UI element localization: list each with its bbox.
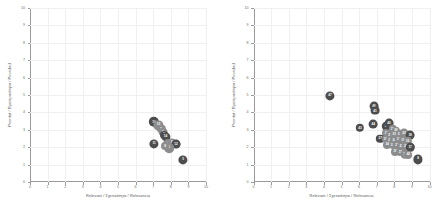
y-tick-mark bbox=[28, 112, 31, 113]
y-tick-label: 3 bbox=[247, 128, 249, 132]
x-tick-label: 7 bbox=[152, 185, 154, 189]
x-tick-label: 10 bbox=[204, 185, 208, 189]
x-tick-label: 5 bbox=[117, 185, 119, 189]
y-tick-mark bbox=[28, 182, 31, 183]
y-axis-label-right: Prioritat / Προτεραιότητα / Prioridad bbox=[230, 63, 235, 127]
y-tick-label: 6 bbox=[23, 76, 25, 80]
gridline-horizontal bbox=[30, 60, 206, 61]
y-tick-mark bbox=[28, 78, 31, 79]
gridline-horizontal bbox=[254, 25, 430, 26]
y-tick-label: 8 bbox=[247, 41, 249, 45]
y-tick-label: 9 bbox=[23, 23, 25, 27]
gridline-horizontal bbox=[254, 78, 430, 79]
x-tick-label: 7 bbox=[376, 185, 378, 189]
y-tick-mark bbox=[251, 147, 254, 148]
y-tick-label: 2 bbox=[23, 145, 25, 149]
x-tick-label: 3 bbox=[305, 185, 307, 189]
gridline-horizontal bbox=[254, 112, 430, 113]
y-axis-label-left: Prioritat / Προτεραιότητα / Prioridad bbox=[7, 63, 12, 127]
y-tick-mark bbox=[28, 43, 31, 44]
y-tick-mark bbox=[28, 25, 31, 26]
chart-panel-left: 012345678910012345678910 101396314114712… bbox=[0, 0, 224, 215]
y-tick-label: 7 bbox=[247, 58, 249, 62]
gridline-horizontal bbox=[254, 43, 430, 44]
y-tick-label: 6 bbox=[247, 76, 249, 80]
gridline-horizontal bbox=[30, 130, 206, 131]
y-tick-label: 10 bbox=[245, 6, 249, 10]
x-tick-label: 8 bbox=[170, 185, 172, 189]
gridline-horizontal bbox=[30, 8, 206, 9]
x-tick-label: 1 bbox=[270, 185, 272, 189]
gridline-horizontal bbox=[254, 165, 430, 166]
y-tick-mark bbox=[28, 130, 31, 131]
gridline-vertical bbox=[430, 8, 431, 182]
x-tick-label: 3 bbox=[82, 185, 84, 189]
y-tick-label: 4 bbox=[23, 110, 25, 114]
gridline-horizontal bbox=[30, 95, 206, 96]
y-tick-mark bbox=[251, 95, 254, 96]
x-tick-label: 0 bbox=[29, 185, 31, 189]
y-tick-mark bbox=[28, 60, 31, 61]
y-tick-mark bbox=[28, 165, 31, 166]
y-tick-mark bbox=[251, 112, 254, 113]
gridline-horizontal bbox=[30, 25, 206, 26]
y-tick-label: 0 bbox=[23, 180, 25, 184]
x-tick-label: 6 bbox=[358, 185, 360, 189]
x-tick-label: 2 bbox=[64, 185, 66, 189]
y-tick-mark bbox=[28, 95, 31, 96]
x-tick-label: 9 bbox=[187, 185, 189, 189]
scatter-point: 42 bbox=[404, 151, 412, 159]
x-tick-label: 8 bbox=[393, 185, 395, 189]
y-tick-mark bbox=[251, 25, 254, 26]
x-tick-label: 4 bbox=[323, 185, 325, 189]
scatter-point: 44 bbox=[369, 119, 378, 128]
y-tick-label: 5 bbox=[247, 93, 249, 97]
figure-canvas: 012345678910012345678910 101396314114712… bbox=[0, 0, 447, 215]
x-axis-label-left: Relevant / Σχετικότητα / Relevancia bbox=[30, 193, 206, 198]
y-tick-label: 1 bbox=[23, 163, 25, 167]
y-tick-mark bbox=[251, 8, 254, 9]
gridline-horizontal bbox=[30, 165, 206, 166]
y-tick-mark bbox=[251, 60, 254, 61]
scatter-point: 41 bbox=[371, 106, 380, 115]
y-tick-mark bbox=[251, 78, 254, 79]
y-tick-label: 1 bbox=[247, 163, 249, 167]
y-tick-label: 4 bbox=[247, 110, 249, 114]
y-tick-label: 10 bbox=[21, 6, 25, 10]
y-tick-label: 8 bbox=[23, 41, 25, 45]
gridline-horizontal bbox=[254, 95, 430, 96]
x-tick-label: 10 bbox=[428, 185, 432, 189]
x-tick-label: 6 bbox=[135, 185, 137, 189]
plot-area-left: 012345678910012345678910 101396314114712… bbox=[30, 8, 206, 182]
gridline-horizontal bbox=[30, 112, 206, 113]
y-tick-mark bbox=[251, 43, 254, 44]
x-tick-label: 0 bbox=[253, 185, 255, 189]
y-tick-mark bbox=[28, 147, 31, 148]
y-tick-mark bbox=[251, 165, 254, 166]
gridline-horizontal bbox=[254, 60, 430, 61]
x-tick-label: 4 bbox=[99, 185, 101, 189]
x-tick-label: 2 bbox=[288, 185, 290, 189]
scatter-point: 8 bbox=[161, 142, 169, 150]
gridline-horizontal bbox=[254, 8, 430, 9]
x-tick-label: 9 bbox=[411, 185, 413, 189]
chart-panel-right: 012345678910012345678910 474641434439403… bbox=[224, 0, 447, 215]
gridline-horizontal bbox=[30, 78, 206, 79]
x-tick-label: 1 bbox=[47, 185, 49, 189]
y-tick-label: 2 bbox=[247, 145, 249, 149]
y-tick-mark bbox=[251, 130, 254, 131]
plot-area-right: 012345678910012345678910 474641434439403… bbox=[254, 8, 430, 182]
y-tick-label: 9 bbox=[247, 23, 249, 27]
x-axis-label-right: Relevant / Σχετικότητα / Relevancia bbox=[254, 193, 430, 198]
gridline-vertical bbox=[206, 8, 207, 182]
y-tick-label: 5 bbox=[23, 93, 25, 97]
y-tick-label: 7 bbox=[23, 58, 25, 62]
y-tick-label: 0 bbox=[247, 180, 249, 184]
gridline-horizontal bbox=[30, 147, 206, 148]
y-tick-mark bbox=[28, 8, 31, 9]
gridline-horizontal bbox=[30, 43, 206, 44]
x-tick-label: 5 bbox=[341, 185, 343, 189]
y-tick-mark bbox=[251, 182, 254, 183]
y-tick-label: 3 bbox=[23, 128, 25, 132]
